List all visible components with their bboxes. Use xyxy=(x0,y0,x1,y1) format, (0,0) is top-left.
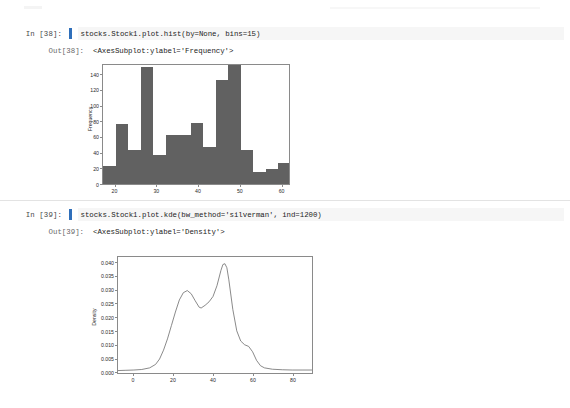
histogram-ytick-140: 140 xyxy=(82,72,99,78)
histogram-bar xyxy=(253,172,266,184)
histogram-bar xyxy=(128,150,141,184)
cell-selected-indicator-39 xyxy=(69,209,72,220)
kde-figure: Density 0.040 0.035 0.030 0.025 0.020 0.… xyxy=(84,252,330,392)
kde-xtick-0: 0 xyxy=(124,377,142,383)
kde-xtick-mark-20 xyxy=(173,374,174,376)
kde-xtick-60: 60 xyxy=(244,377,262,383)
scan-artifact-top xyxy=(24,6,42,9)
kde-ytick-0000: 0.000 xyxy=(87,370,114,376)
histogram-bar xyxy=(116,124,129,185)
histogram-ytick-20: 20 xyxy=(82,166,99,172)
histogram-xtick-mark-40 xyxy=(198,185,199,187)
kde-xtick-20: 20 xyxy=(164,377,182,383)
histogram-bar xyxy=(166,135,179,184)
kde-ytick-0015: 0.015 xyxy=(87,329,114,335)
histogram-figure: Frequency 0 20 40 60 80 100 120 140 20 3… xyxy=(78,58,294,196)
kde-xtick-40: 40 xyxy=(204,377,222,383)
kde-xtick-mark-40 xyxy=(213,374,214,376)
histogram-ytick-80: 80 xyxy=(82,119,99,125)
histogram-ytick-40: 40 xyxy=(82,150,99,156)
code-editor-38[interactable]: stocks.Stock1.plot.hist(by=None, bins=15… xyxy=(78,27,565,40)
notebook-cell-38: In [38]: stocks.Stock1.plot.hist(by=None… xyxy=(0,26,570,58)
histogram-xtick-mark-60 xyxy=(282,185,283,187)
kde-curve-svg xyxy=(118,257,312,374)
histogram-bar xyxy=(178,135,191,184)
histogram-xtick-50: 50 xyxy=(230,188,249,194)
kde-axes xyxy=(117,256,313,374)
histogram-xtick-20: 20 xyxy=(105,188,124,194)
histogram-bar xyxy=(153,155,166,184)
kde-ytick-0030: 0.030 xyxy=(87,287,114,293)
histogram-xtick-mark-20 xyxy=(115,185,116,187)
histogram-bar xyxy=(216,80,229,184)
histogram-xtick-mark-50 xyxy=(240,185,241,187)
input-prompt-38: In [38]: xyxy=(0,30,62,38)
histogram-xtick-30: 30 xyxy=(147,188,166,194)
scan-artifact-top-2 xyxy=(330,7,540,9)
input-row-38: In [38]: stocks.Stock1.plot.hist(by=None… xyxy=(0,26,570,41)
histogram-bar xyxy=(266,169,279,184)
histogram-bar xyxy=(278,163,289,184)
histogram-plot-area xyxy=(103,65,289,184)
cell-divider xyxy=(0,200,570,201)
output-row-38: Out[38]: <AxesSubplot:ylabel='Frequency'… xyxy=(0,44,570,58)
output-text-39: <AxesSubplot:ylabel='Density'> xyxy=(93,228,225,236)
output-text-38: <AxesSubplot:ylabel='Frequency'> xyxy=(93,47,233,55)
kde-ytick-0035: 0.035 xyxy=(87,273,114,279)
kde-ytick-0005: 0.005 xyxy=(87,356,114,362)
cell-selected-indicator-38 xyxy=(69,28,72,39)
input-row-39: In [39]: stocks.Stock1.plot.kde(bw_metho… xyxy=(0,207,570,222)
kde-ytick-0010: 0.010 xyxy=(87,342,114,348)
histogram-bar xyxy=(191,123,204,184)
histogram-axes xyxy=(102,64,290,185)
kde-xtick-80: 80 xyxy=(284,377,302,383)
histogram-ytick-120: 120 xyxy=(82,87,99,93)
kde-ytick-0040: 0.040 xyxy=(87,260,114,266)
kde-xtick-mark-80 xyxy=(293,374,294,376)
histogram-xtick-40: 40 xyxy=(189,188,208,194)
code-text-38: stocks.Stock1.plot.hist(by=None, bins=15… xyxy=(81,30,261,38)
output-prompt-39: Out[39]: xyxy=(0,228,84,236)
notebook-cell-39: In [39]: stocks.Stock1.plot.kde(bw_metho… xyxy=(0,207,570,239)
output-row-39: Out[39]: <AxesSubplot:ylabel='Density'> xyxy=(0,225,570,239)
input-prompt-39: In [39]: xyxy=(0,211,62,219)
histogram-bar xyxy=(228,65,241,184)
kde-xtick-mark-60 xyxy=(253,374,254,376)
histogram-xtick-mark-30 xyxy=(156,185,157,187)
histogram-bar xyxy=(241,150,254,184)
kde-xtick-mark-0 xyxy=(133,374,134,376)
histogram-xtick-60: 60 xyxy=(272,188,291,194)
histogram-bar xyxy=(203,147,216,184)
kde-density-curve xyxy=(118,264,312,371)
output-prompt-38: Out[38]: xyxy=(0,47,84,55)
code-text-39: stocks.Stock1.plot.kde(bw_method='silver… xyxy=(81,211,322,219)
histogram-ytick-0: 0 xyxy=(82,182,99,188)
histogram-bar xyxy=(103,166,116,184)
histogram-bar xyxy=(141,67,154,184)
histogram-ytick-100: 100 xyxy=(82,103,99,109)
histogram-ytick-60: 60 xyxy=(82,134,99,140)
kde-ytick-0025: 0.025 xyxy=(87,301,114,307)
kde-ytick-0020: 0.020 xyxy=(87,315,114,321)
code-editor-39[interactable]: stocks.Stock1.plot.kde(bw_method='silver… xyxy=(78,208,565,221)
